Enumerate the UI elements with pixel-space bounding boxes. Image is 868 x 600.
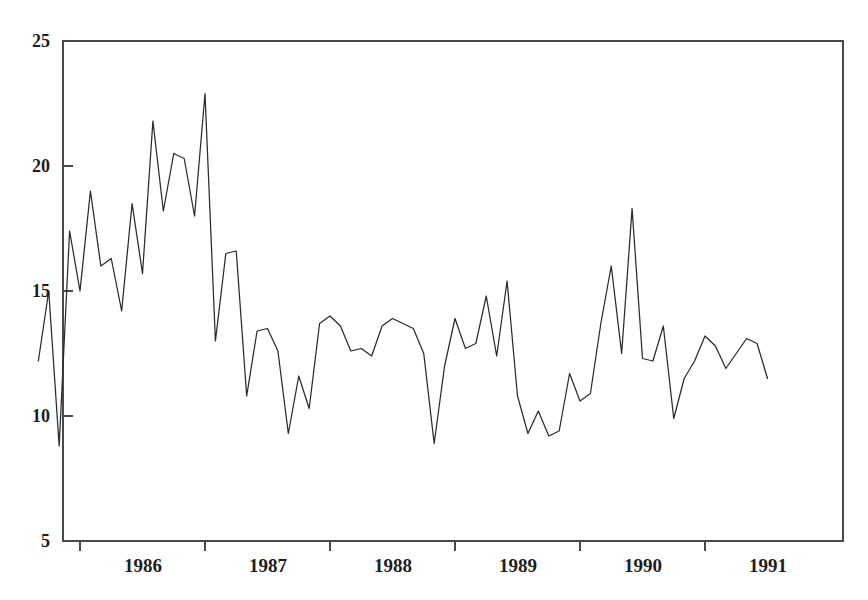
y-tick-label-20: 20 — [14, 157, 50, 175]
x-tick-label-1987: 1987 — [227, 556, 309, 575]
line-chart-canvas — [0, 0, 868, 600]
y-tick-label-5: 5 — [14, 532, 50, 550]
y-axis-ticks — [63, 41, 73, 541]
y-tick-label-15: 15 — [14, 282, 50, 300]
series-line-1 — [38, 94, 767, 447]
x-tick-label-1986: 1986 — [102, 556, 184, 575]
x-tick-label-1990: 1990 — [602, 556, 684, 575]
y-tick-label-10: 10 — [14, 407, 50, 425]
x-axis-ticks — [80, 541, 705, 551]
x-tick-label-1991: 1991 — [727, 556, 809, 575]
x-tick-label-1989: 1989 — [477, 556, 559, 575]
plot-frame — [63, 41, 843, 541]
x-tick-label-1988: 1988 — [352, 556, 434, 575]
y-tick-label-25: 25 — [14, 32, 50, 50]
chart-figure: 25 20 15 10 5 1986 1987 1988 1989 1990 1… — [0, 0, 868, 600]
